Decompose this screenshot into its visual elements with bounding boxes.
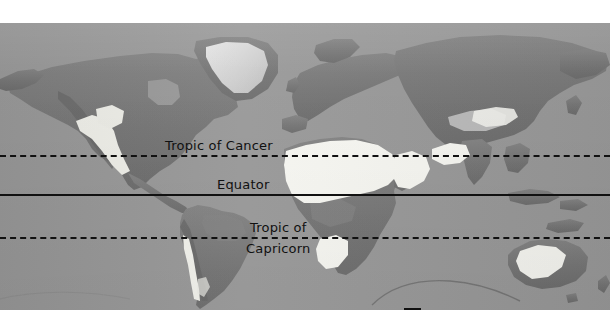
landmass-layer — [0, 23, 610, 310]
landmass-europe — [282, 39, 410, 133]
desert-legend-swatch — [404, 308, 421, 310]
page-root: Tropic of Cancer Equator Tropic of Capri… — [0, 0, 610, 332]
equator-label: Equator — [217, 177, 269, 192]
world-map-figure: Tropic of Cancer Equator Tropic of Capri… — [0, 23, 610, 310]
tropic-of-capricorn-line — [0, 237, 610, 239]
tropic-of-capricorn-label-line2: Capricorn — [246, 241, 311, 256]
tropic-of-cancer-line — [0, 155, 610, 157]
antarctic-coast-hint — [0, 281, 520, 305]
desert-legend-label: = Deserts — [427, 309, 492, 311]
map-legend: = Deserts — [404, 308, 492, 310]
equator-line — [0, 194, 610, 196]
tropic-of-cancer-label: Tropic of Cancer — [165, 138, 273, 153]
tropic-of-capricorn-label-line1: Tropic of — [250, 220, 307, 235]
